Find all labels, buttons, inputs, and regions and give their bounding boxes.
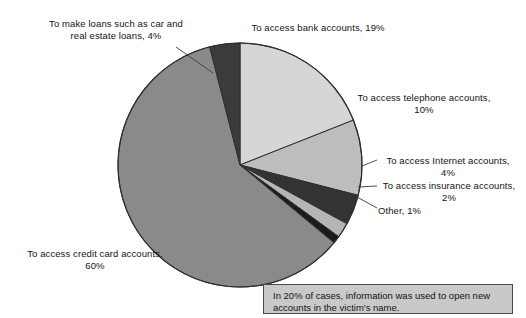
pie-label-credit-card-accounts: To access credit card accounts, 60% [14,248,176,271]
note-box: In 20% of cases, information was used to… [263,284,513,314]
pie-chart-figure: To make loans such as car and real estat… [0,0,526,318]
pie-label-internet-accounts: To access Internet accounts, 4% [374,155,522,178]
pie-label-other: Other, 1% [378,205,464,217]
pie-label-loans: To make loans such as car and real estat… [28,18,204,41]
pie-label-insurance-accounts: To access insurance accounts, 2% [374,180,524,203]
pie-label-telephone-accounts: To access telephone accounts, 10% [344,92,504,115]
pie-label-bank-accounts: To access bank accounts, 19% [232,22,404,34]
